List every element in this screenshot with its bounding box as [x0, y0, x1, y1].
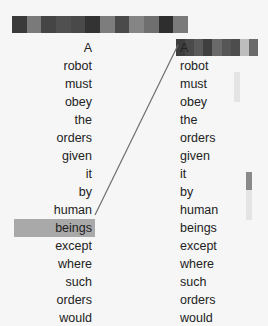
attention-line	[0, 0, 268, 320]
